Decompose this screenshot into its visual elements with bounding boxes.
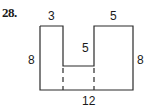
figure-outline: [40, 26, 133, 90]
label-top-right-width: 5: [110, 10, 117, 22]
label-left-height: 8: [28, 54, 35, 66]
label-notch-depth: 5: [82, 42, 89, 54]
label-right-height: 8: [137, 54, 144, 66]
u-shape-figure: [0, 0, 153, 112]
label-top-left-width: 3: [48, 10, 55, 22]
label-bottom-width: 12: [82, 95, 95, 107]
